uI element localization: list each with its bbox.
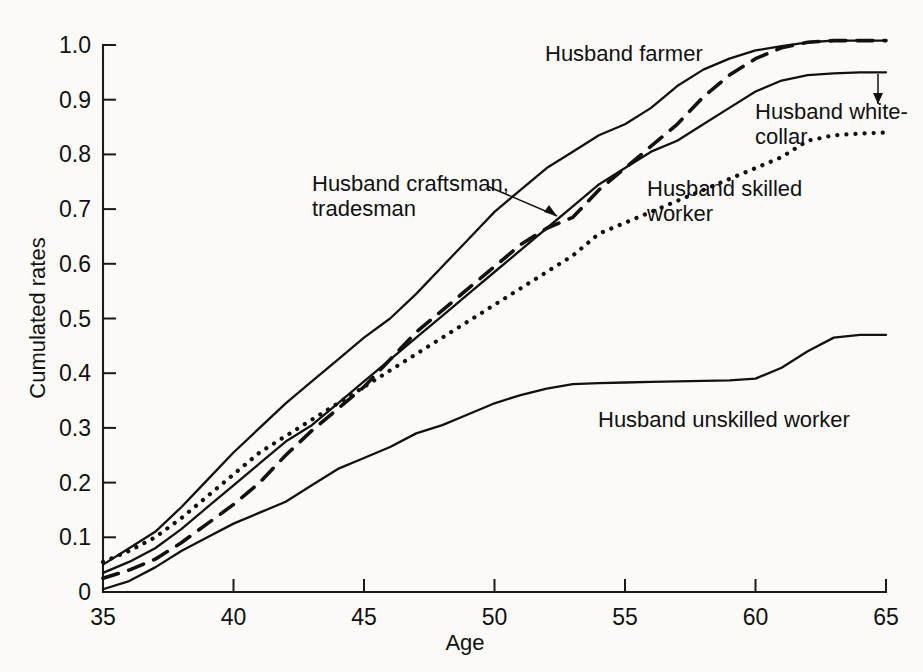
- annotation-husband-white-collar: Husband white- collar: [755, 100, 908, 149]
- y-axis-tick-label: 0.7: [59, 196, 91, 222]
- annotation-label-line2: tradesman: [312, 197, 509, 222]
- annotation-label-line2: worker: [647, 202, 802, 227]
- x-axis-tick-label: 60: [743, 604, 769, 630]
- annotation-label-line1: Husband unskilled worker: [598, 407, 850, 432]
- y-axis-tick-label: 0: [78, 579, 91, 605]
- annotation-label-line2: collar: [755, 125, 908, 150]
- y-axis-tick-label: 0.8: [59, 141, 91, 167]
- annotation-husband-craftsman: Husband craftsman, tradesman: [312, 172, 509, 221]
- x-axis-tick-label: 50: [482, 604, 508, 630]
- y-axis-tick-label: 0.2: [59, 470, 91, 496]
- annotation-label-line1: Husband craftsman,: [312, 172, 509, 197]
- x-axis-tick-label: 35: [90, 604, 116, 630]
- annotation-label-line1: Husband white-: [755, 100, 908, 125]
- x-axis-tick-label: 45: [351, 604, 377, 630]
- chart-figure: 00.10.20.30.40.50.60.70.80.91.0354045505…: [0, 0, 923, 672]
- annotation-label-line1: Husband farmer: [545, 41, 703, 66]
- y-axis-tick-label: 0.3: [59, 415, 91, 441]
- leader-arrow-craftsman: [544, 205, 557, 216]
- y-axis-tick-label: 0.1: [59, 524, 91, 550]
- annotation-husband-unskilled-worker: Husband unskilled worker: [598, 408, 850, 433]
- series-line-husband-unskilled-worker: [103, 335, 886, 589]
- y-axis-tick-label: 0.6: [59, 251, 91, 277]
- x-axis-tick-label: 65: [873, 604, 899, 630]
- x-axis-tick-label: 55: [612, 604, 638, 630]
- annotation-husband-farmer: Husband farmer: [545, 42, 703, 67]
- x-axis-tick-label: 40: [221, 604, 247, 630]
- y-axis-tick-label: 1.0: [59, 32, 91, 58]
- y-axis-tick-label: 0.5: [59, 306, 91, 332]
- y-axis-tick-label: 0.4: [59, 360, 91, 386]
- annotation-husband-skilled-worker: Husband skilled worker: [647, 177, 802, 226]
- y-axis-tick-label: 0.9: [59, 87, 91, 113]
- annotation-label-line1: Husband skilled: [647, 177, 802, 202]
